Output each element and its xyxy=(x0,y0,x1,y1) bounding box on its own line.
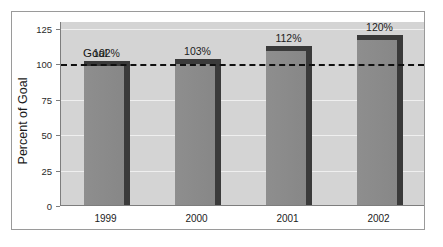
bar-side-face xyxy=(124,61,130,205)
y-axis-tick-label: 0 xyxy=(47,201,52,212)
bar-front-face xyxy=(266,46,306,205)
bar-value-label: 112% xyxy=(275,32,301,44)
bar-side-face xyxy=(397,35,403,205)
y-axis-tick-mark xyxy=(56,206,60,207)
bar-side-face xyxy=(215,59,221,205)
y-axis-tick-label: 50 xyxy=(41,130,52,141)
bar[interactable] xyxy=(84,61,124,205)
chart-figure: Percent of Goal 0255075100125 Goal 102%1… xyxy=(0,0,443,247)
bar[interactable] xyxy=(266,46,306,205)
y-axis-title: Percent of Goal xyxy=(16,77,30,164)
bar-top-cap xyxy=(357,35,397,40)
x-axis-tick-label: 2000 xyxy=(185,213,207,224)
bar-front-face xyxy=(357,35,397,205)
bar-front-face xyxy=(84,61,124,205)
goal-label: Goal xyxy=(83,47,107,59)
goal-reference-line xyxy=(61,64,424,66)
bar-value-label: 120% xyxy=(366,21,393,33)
y-axis-tick-label: 100 xyxy=(36,59,52,70)
clipped-caption xyxy=(14,238,414,246)
y-axis-tick-label: 125 xyxy=(36,24,52,35)
bar[interactable] xyxy=(357,35,397,205)
bar-front-face xyxy=(175,59,215,205)
chart-frame: Percent of Goal 0255075100125 Goal 102%1… xyxy=(11,11,425,230)
bar-side-face xyxy=(306,46,312,205)
y-axis-tick-label: 75 xyxy=(41,94,52,105)
bar-top-cap xyxy=(266,46,306,51)
bar-value-label: 103% xyxy=(184,45,211,57)
bar[interactable] xyxy=(175,59,215,205)
plot-area: Goal 102%103%112%120% xyxy=(60,22,424,206)
x-axis-tick-label: 2002 xyxy=(367,213,389,224)
x-axis-tick-label: 2001 xyxy=(276,213,298,224)
y-axis-tick-label: 25 xyxy=(41,165,52,176)
x-axis-tick-label: 1999 xyxy=(94,213,116,224)
